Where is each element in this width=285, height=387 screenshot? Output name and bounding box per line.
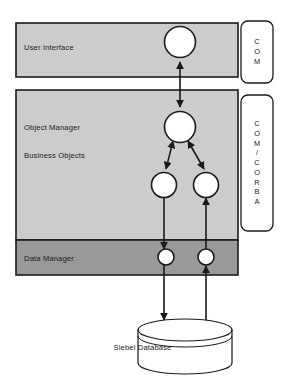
node-bo-object-left: [152, 173, 177, 198]
layer-label-user-interface: User Interface: [24, 44, 74, 52]
badge-corba-char-3: /: [256, 148, 258, 158]
badge-com-char-1: O: [254, 47, 260, 57]
badge-com-char-2: M: [254, 57, 260, 67]
badge-corba-char-4: C: [254, 158, 259, 168]
diagram-canvas: [0, 0, 285, 387]
node-ui-object: [165, 27, 196, 58]
layer-label-object-manager: Object Manager: [24, 124, 80, 132]
badge-corba-char-5: O: [254, 168, 260, 178]
node-bo-object-right: [194, 173, 219, 198]
badge-com-corba-label: C O M / C O R B A: [248, 100, 266, 226]
badge-com-char-0: C: [254, 37, 259, 47]
badge-corba-char-7: B: [255, 187, 260, 197]
node-om-object: [165, 112, 196, 143]
datastore-label: Siebel Database: [0, 344, 285, 352]
node-dm-object-left: [158, 249, 174, 265]
layer-object-manager: [16, 90, 238, 240]
badge-com-label: C O M: [248, 28, 266, 76]
layer-label-business-objects: Business Objects: [24, 152, 85, 160]
layer-label-data-manager: Data Manager: [24, 255, 74, 263]
node-dm-object-right: [198, 249, 214, 265]
badge-corba-char-2: M: [254, 139, 260, 149]
badge-corba-char-1: O: [254, 129, 260, 139]
badge-corba-char-8: A: [255, 197, 260, 207]
architecture-diagram: User Interface Object Manager Business O…: [0, 0, 285, 387]
badge-corba-char-0: C: [254, 119, 259, 129]
badge-corba-char-6: R: [254, 178, 259, 188]
